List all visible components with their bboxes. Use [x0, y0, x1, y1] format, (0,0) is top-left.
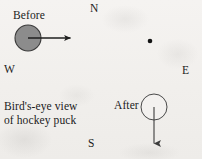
hockey-puck-diagram: Before After N W E S Bird's-eye view of … — [0, 0, 202, 159]
after-label: After — [114, 99, 139, 113]
figure-caption: Bird's-eye view of hockey puck — [4, 100, 78, 127]
compass-label-west: W — [4, 63, 15, 77]
diagram-vector-layer — [0, 0, 202, 159]
compass-label-south: S — [88, 137, 95, 151]
compass-label-north: N — [90, 2, 98, 16]
figure-caption-line-2: of hockey puck — [4, 114, 78, 128]
center-reference-dot — [148, 39, 153, 44]
figure-caption-line-1: Bird's-eye view — [4, 100, 78, 114]
before-label: Before — [13, 9, 45, 23]
compass-label-east: E — [182, 64, 189, 78]
